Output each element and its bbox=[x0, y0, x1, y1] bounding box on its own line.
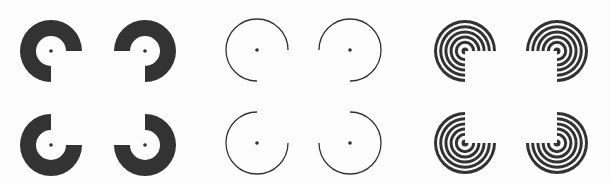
thin-arcs-inducer-bottom-left bbox=[319, 19, 381, 81]
concentric-ring-group bbox=[434, 20, 588, 174]
solid-pacmen-inducer-bottom-right bbox=[20, 20, 82, 82]
concentric-rings-inducer-bottom-right bbox=[434, 20, 496, 82]
solid-pacmen-inducer-top-left bbox=[114, 114, 176, 176]
fixation-dot bbox=[255, 141, 259, 145]
thin-arcs-inducer-bottom-right bbox=[226, 19, 288, 81]
fixation-dot bbox=[348, 48, 352, 52]
thin-arcs-inducer-top-right bbox=[226, 112, 288, 174]
fixation-dot bbox=[49, 49, 53, 53]
fixation-dot bbox=[143, 143, 147, 147]
fixation-dot bbox=[49, 143, 53, 147]
thin-arcs-inducer-top-left bbox=[319, 112, 381, 174]
fixation-dot bbox=[143, 49, 147, 53]
ring-core bbox=[462, 48, 469, 55]
fixation-dot bbox=[348, 141, 352, 145]
concentric-rings-inducer-bottom-left bbox=[526, 20, 588, 82]
concentric-rings-inducer-top-left bbox=[526, 112, 588, 174]
kanizsa-figures-svg bbox=[0, 0, 610, 183]
thin-arc-group bbox=[226, 19, 381, 174]
solid-pacman-group bbox=[20, 20, 176, 176]
ring-core bbox=[554, 140, 561, 147]
fixation-dot bbox=[255, 48, 259, 52]
kanizsa-figure-canvas bbox=[0, 0, 610, 183]
ring-core bbox=[462, 140, 469, 147]
solid-pacmen-inducer-top-right bbox=[20, 114, 82, 176]
concentric-rings-inducer-top-right bbox=[434, 112, 496, 174]
ring-core bbox=[554, 48, 561, 55]
solid-pacmen-inducer-bottom-left bbox=[114, 20, 176, 82]
